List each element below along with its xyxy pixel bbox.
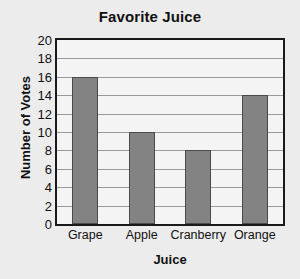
y-tick-label: 12 [25, 107, 52, 120]
y-tick-label: 16 [25, 70, 52, 83]
y-tick-label: 10 [25, 126, 52, 139]
x-tick-label: Cranberry [170, 228, 226, 242]
x-tick-label: Grape [68, 228, 103, 242]
bar-orange[interactable] [242, 95, 268, 224]
y-tick-label: 4 [25, 181, 52, 194]
bar-grape[interactable] [72, 77, 98, 224]
y-tick-label: 20 [25, 34, 52, 47]
y-tick-label: 0 [25, 218, 52, 231]
y-axis-tick-labels: 02468101214161820 [25, 38, 52, 226]
y-tick-label: 8 [25, 144, 52, 157]
bar-chart-figure: Favorite Juice Number of Votes 024681012… [0, 0, 300, 279]
y-tick-label: 6 [25, 162, 52, 175]
x-axis-title: Juice [55, 252, 285, 267]
plot-area [55, 38, 285, 226]
bar-apple[interactable] [129, 132, 155, 224]
bar-cranberry[interactable] [185, 150, 211, 224]
bars-layer [57, 40, 283, 224]
x-axis-tick-labels: GrapeAppleCranberryOrange [55, 228, 285, 248]
chart-title: Favorite Juice [0, 8, 300, 25]
x-tick-label: Apple [126, 228, 158, 242]
y-tick-label: 18 [25, 52, 52, 65]
x-tick-label: Orange [234, 228, 276, 242]
y-tick-label: 14 [25, 89, 52, 102]
y-tick-label: 2 [25, 199, 52, 212]
